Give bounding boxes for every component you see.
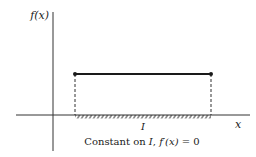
left-endpoint	[73, 72, 77, 76]
caption: Constant on I, f′(x) = 0	[84, 136, 199, 147]
right-endpoint	[209, 72, 213, 76]
x-axis-label: x	[235, 118, 242, 131]
interval-hatching	[75, 115, 211, 119]
y-axis-label: f(x)	[29, 9, 49, 22]
caption-equals: = 0	[179, 136, 200, 147]
caption-prefix: Constant on	[84, 136, 149, 147]
caption-derivative: f′(x)	[158, 136, 179, 147]
interval-label: I	[140, 121, 146, 132]
diagram-canvas: f(x) x I Constant on I, f′(x) = 0	[0, 0, 256, 157]
